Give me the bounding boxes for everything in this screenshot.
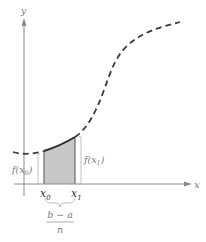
f-x0-label: f(x0)	[11, 164, 33, 177]
f-x1-label: f(x1)	[83, 154, 105, 167]
x-axis-arrow-icon	[184, 182, 192, 187]
y-axis-arrow-icon	[22, 18, 27, 26]
width-denominator: n	[57, 224, 63, 235]
x0-label: x0	[40, 187, 51, 202]
f-x0-bracket	[38, 154, 40, 184]
width-numerator: b − a	[47, 209, 73, 220]
x-axis-label: x	[194, 179, 200, 190]
diagram-canvas: y x x0 x1 f(x0) f(x1) b − a n	[0, 0, 206, 242]
y-axis-label: y	[20, 6, 27, 16]
f-x1-bracket	[79, 137, 81, 184]
x1-label: x1	[71, 187, 82, 202]
curve-right-dashed	[75, 22, 180, 137]
curve-left-dashed	[13, 151, 44, 154]
